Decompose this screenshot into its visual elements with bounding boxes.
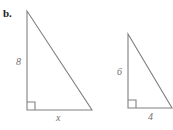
part-label-b: b. <box>3 8 12 19</box>
left-triangle-right-angle-marker <box>27 102 35 110</box>
right-triangle-vertical-leg-label: 6 <box>117 67 122 77</box>
left-triangle-outline <box>27 11 92 110</box>
right-triangle <box>128 34 172 108</box>
right-triangle-horizontal-leg-label: 4 <box>148 112 153 122</box>
left-triangle <box>27 11 92 110</box>
left-triangle-vertical-leg-label: 8 <box>16 57 21 67</box>
right-triangle-right-angle-marker <box>128 100 136 108</box>
geometry-figure: b. 8 x 6 4 <box>0 0 173 130</box>
right-triangle-outline <box>128 34 172 108</box>
left-triangle-horizontal-leg-label: x <box>56 113 60 123</box>
